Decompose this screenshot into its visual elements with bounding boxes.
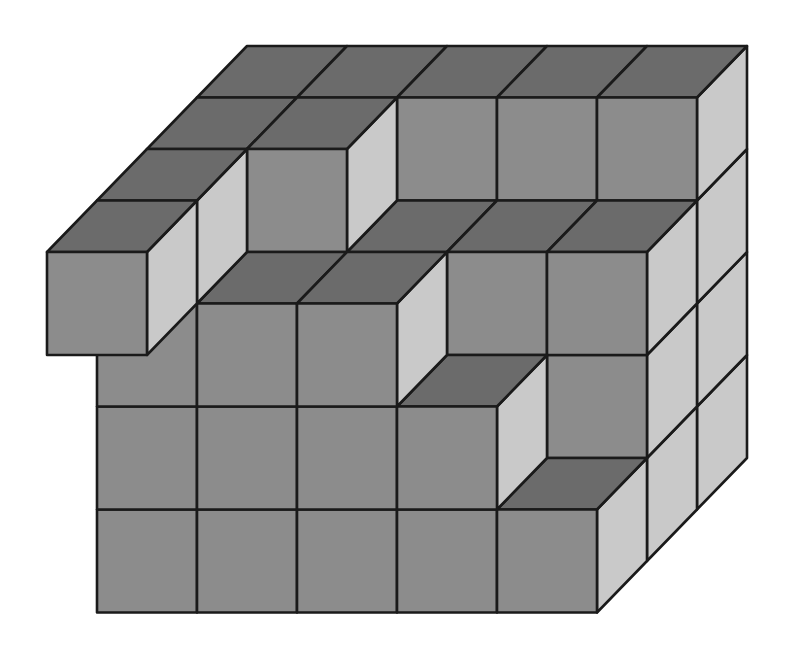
cube-front-face [297,407,397,510]
cube-front-face [47,252,147,355]
cube-front-face [297,304,397,407]
cube-front-face [547,252,647,355]
cube-front-face [497,510,597,613]
cube-front-face [547,355,647,458]
cube-front-face [397,98,497,201]
cube-front-face [197,510,297,613]
cube-front-face [447,252,547,355]
cube-front-face [197,407,297,510]
cube-front-face [597,98,697,201]
voxel-canvas [0,0,793,658]
cube-front-face [197,304,297,407]
cube-front-face [397,510,497,613]
cube-faces-group [47,46,747,613]
cube-front-face [97,510,197,613]
cube-front-face [497,98,597,201]
cube-front-face [247,149,347,252]
cube-front-face [397,407,497,510]
cube-front-face [297,510,397,613]
cube-front-face [97,407,197,510]
